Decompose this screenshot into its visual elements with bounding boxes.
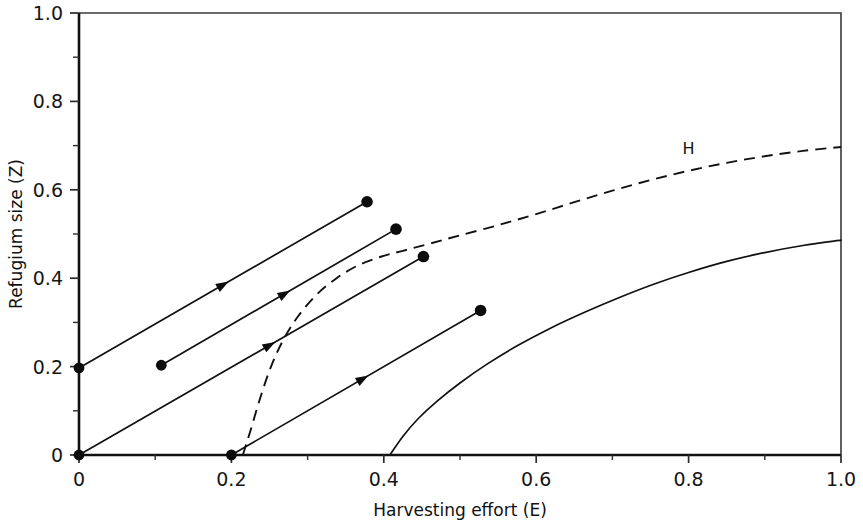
trajectory-end-dot <box>361 196 373 208</box>
curve-label-h: H <box>683 139 695 158</box>
trajectory-start-dot <box>74 450 85 461</box>
isocline-curve-solid <box>390 240 841 455</box>
axes-group: 00.20.40.60.81.000.20.40.60.81.0 <box>33 2 856 490</box>
trajectory-start-dot <box>226 450 237 461</box>
x-axis-title: Harvesting effort (E) <box>373 500 547 520</box>
y-tick-label: 0.8 <box>33 90 63 112</box>
trajectory-start-dot <box>74 363 85 374</box>
x-tick-label: 0.2 <box>216 468 246 490</box>
x-tick-label: 0.8 <box>673 468 703 490</box>
y-tick-label: 1.0 <box>33 2 63 24</box>
trajectories-group <box>74 196 487 460</box>
trajectory-end-dot <box>390 223 402 235</box>
x-tick-label: 1.0 <box>826 468 856 490</box>
trajectory-end-dot <box>475 305 487 317</box>
isocline-curve-dashed <box>243 147 841 455</box>
trajectory-arrowhead <box>355 372 371 386</box>
chart-canvas: 00.20.40.60.81.000.20.40.60.81.0 Harvest… <box>0 0 863 525</box>
curves-group <box>243 147 841 455</box>
trajectory-start-dot <box>156 360 167 371</box>
trajectory-arrowhead <box>215 278 231 292</box>
trajectory-arrowhead <box>262 338 278 352</box>
trajectory-end-dot <box>418 251 430 263</box>
y-tick-label: 0.4 <box>33 267 63 289</box>
x-tick-label: 0 <box>73 468 85 490</box>
trajectory-line <box>79 257 423 455</box>
trajectory-arrowhead <box>277 286 293 300</box>
trajectory-line <box>161 229 396 365</box>
x-tick-label: 0.4 <box>369 468 399 490</box>
trajectory-line <box>231 310 480 455</box>
y-tick-label: 0 <box>51 444 63 466</box>
x-tick-label: 0.6 <box>521 468 551 490</box>
figure-container: 00.20.40.60.81.000.20.40.60.81.0 Harvest… <box>0 0 863 525</box>
y-tick-label: 0.6 <box>33 179 63 201</box>
y-tick-label: 0.2 <box>33 356 63 378</box>
y-axis-title: Refugium size (Z) <box>6 159 26 309</box>
